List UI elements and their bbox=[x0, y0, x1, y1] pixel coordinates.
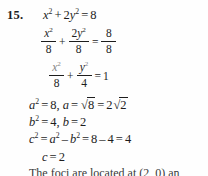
eq2-frac1-denominator: 8 bbox=[43, 43, 55, 56]
equation-line-5-b-value: b2=4, b=2 bbox=[29, 115, 86, 130]
eq3-frac2-bar bbox=[77, 75, 92, 76]
problem-number: 15. bbox=[7, 8, 23, 23]
eq3-frac1-denominator: 8 bbox=[51, 77, 63, 90]
eq6-minus-1: – bbox=[60, 132, 70, 146]
equation-line-3: x2 8 + y2 4 = 1 bbox=[48, 61, 109, 90]
eq3-frac1-exp: 2 bbox=[57, 60, 61, 68]
eq3-frac2-denominator: 4 bbox=[78, 77, 90, 90]
eq3-frac2-exp: 2 bbox=[85, 60, 89, 68]
eq2-frac2-denominator: 8 bbox=[73, 43, 85, 56]
eq2-fraction-x: x2 8 bbox=[41, 27, 56, 56]
eq7-c: c bbox=[42, 150, 48, 164]
eq3-frac1-bar bbox=[49, 75, 64, 76]
eq2-plus: + bbox=[57, 36, 68, 48]
eq3-plus: + bbox=[65, 70, 76, 82]
eq4-a-second: a bbox=[63, 98, 69, 112]
eq2-frac1-exp: 2 bbox=[49, 26, 53, 34]
eq1-plus: + bbox=[52, 8, 63, 22]
eq2-frac1-numerator: x2 bbox=[41, 27, 56, 40]
eq3-fraction-x: x2 8 bbox=[49, 61, 64, 90]
eq6-equals-3: = bbox=[114, 132, 125, 146]
eq5-equals-2: = bbox=[69, 115, 80, 129]
scanned-textbook-page: 15. x2+2y2=8 x2 8 + 2y2 8 = 8 8 x2 8 + bbox=[0, 0, 208, 176]
equation-line-2: x2 8 + 2y2 8 = 8 8 bbox=[40, 27, 117, 56]
eq2-frac2-numerator: 2y2 bbox=[69, 27, 89, 40]
eq2-frac1-bar bbox=[41, 41, 56, 42]
equation-line-7-c-value: c=2 bbox=[42, 150, 65, 165]
eq3-equals: = bbox=[93, 70, 104, 82]
eq4-radical-2: √2 bbox=[112, 98, 127, 113]
eq4-equals-1: = bbox=[39, 98, 50, 112]
eq7-equals: = bbox=[48, 150, 59, 164]
eq6-result: 4 bbox=[125, 132, 131, 146]
eq1-rhs: 8 bbox=[90, 8, 96, 22]
eq4-equals-2: = bbox=[69, 98, 80, 112]
eq4-equals-3: = bbox=[95, 98, 106, 112]
eq6-value-b: 4 bbox=[108, 132, 114, 146]
eq5-b-second: b bbox=[63, 115, 69, 129]
eq4-comma: , bbox=[56, 98, 59, 112]
eq2-frac3-denominator: 8 bbox=[103, 43, 115, 56]
eq3-rhs: 1 bbox=[103, 70, 109, 82]
eq3-frac2-numerator: y2 bbox=[77, 61, 92, 74]
equation-line-6-c-squared: c2=a2–b2=8–4=4 bbox=[29, 132, 131, 147]
eq4-radicand-2: 2 bbox=[119, 97, 127, 112]
eq5-comma: , bbox=[56, 115, 59, 129]
eq2-fraction-rhs: 8 8 bbox=[101, 27, 116, 56]
eq6-equals-2: = bbox=[80, 132, 91, 146]
eq2-equals: = bbox=[90, 36, 101, 48]
eq5-b-value: 2 bbox=[80, 115, 86, 129]
eq3-frac2-var: y bbox=[80, 61, 85, 73]
eq2-frac3-bar bbox=[101, 41, 116, 42]
equation-line-1: x2+2y2=8 bbox=[43, 8, 97, 23]
eq1-equals: = bbox=[79, 8, 90, 22]
eq2-frac2-bar bbox=[69, 41, 89, 42]
eq6-equals-1: = bbox=[38, 132, 49, 146]
eq3-frac1-numerator: x2 bbox=[49, 61, 64, 74]
equation-line-4-a-value: a2=8, a=√8=2√2 bbox=[29, 98, 128, 113]
eq5-equals-1: = bbox=[39, 115, 50, 129]
eq2-frac2-exp: 2 bbox=[82, 26, 86, 34]
eq3-fraction-y: y2 4 bbox=[77, 61, 92, 90]
eq2-fraction-y: 2y2 8 bbox=[69, 27, 89, 56]
eq4-radical-8: √8 bbox=[80, 98, 95, 113]
eq2-frac3-numerator: 8 bbox=[103, 27, 115, 40]
eq7-value: 2 bbox=[59, 150, 65, 164]
eq4-radicand-8: 8 bbox=[87, 97, 95, 112]
eq6-minus-2: – bbox=[97, 132, 107, 146]
